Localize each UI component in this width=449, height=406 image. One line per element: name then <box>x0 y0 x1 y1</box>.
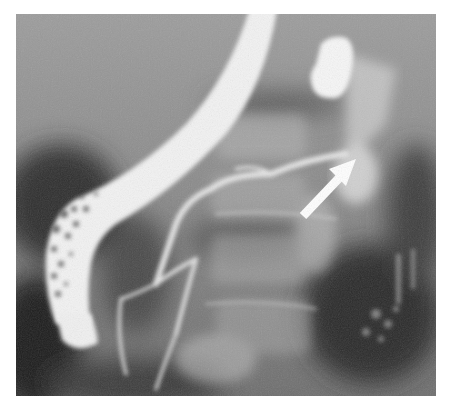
film-grain <box>16 14 436 396</box>
xray-canvas <box>16 14 436 396</box>
xray-image <box>16 14 436 396</box>
